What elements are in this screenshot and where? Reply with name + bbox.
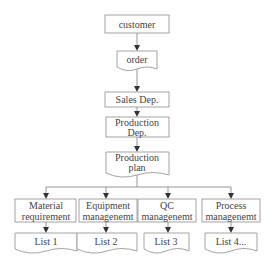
- node-label-line2: Dep.: [127, 127, 146, 138]
- arrow-icon: [103, 193, 109, 199]
- arrow-icon: [134, 45, 140, 51]
- node-label: Sales Dep.: [116, 94, 159, 105]
- node-production-dep: Production Dep.: [106, 117, 169, 138]
- arrow-icon: [165, 227, 171, 233]
- node-label-line1: Process: [216, 200, 247, 211]
- node-list-1: List 1: [15, 233, 77, 253]
- node-production-plan: Production plan: [106, 152, 169, 177]
- node-list-2: List 2: [77, 233, 137, 253]
- node-customer: customer: [105, 15, 169, 33]
- node-label-line2: managenemt: [141, 211, 192, 222]
- node-label: List 4...: [216, 236, 247, 247]
- node-list-3: List 3: [144, 233, 189, 253]
- node-label: List 2: [94, 236, 117, 247]
- node-sales-dep: Sales Dep.: [105, 92, 169, 107]
- arrow-icon: [228, 193, 234, 199]
- arrow-icon: [43, 193, 49, 199]
- node-label: customer: [119, 19, 156, 30]
- node-label: List 3: [154, 236, 177, 247]
- node-equipment-management: Equipment managenemt: [79, 199, 137, 222]
- arrow-icon: [103, 227, 109, 233]
- node-label-line2: plan: [128, 162, 145, 173]
- node-material-requirement: Material requirement: [15, 199, 76, 222]
- node-label-line1: Material: [29, 200, 63, 211]
- node-label-line2: managenemt: [82, 211, 133, 222]
- node-label: List 1: [34, 236, 57, 247]
- node-label-line1: Equipment: [86, 200, 130, 211]
- arrow-icon: [134, 86, 140, 92]
- arrow-icon: [43, 227, 49, 233]
- arrow-icon: [228, 227, 234, 233]
- node-qc-management: QC managenemt: [138, 199, 196, 222]
- node-process-management: Process managenemt: [202, 199, 260, 222]
- node-label-line2: requirement: [22, 211, 71, 222]
- flowchart-canvas: customer order Sales Dep. Production Dep…: [0, 0, 276, 267]
- node-order: order: [117, 51, 157, 71]
- arrow-icon: [165, 193, 171, 199]
- node-list-4: List 4...: [205, 233, 257, 253]
- node-label-line2: managenemt: [205, 211, 256, 222]
- node-label-line1: QC: [160, 200, 174, 211]
- node-label: order: [126, 54, 148, 65]
